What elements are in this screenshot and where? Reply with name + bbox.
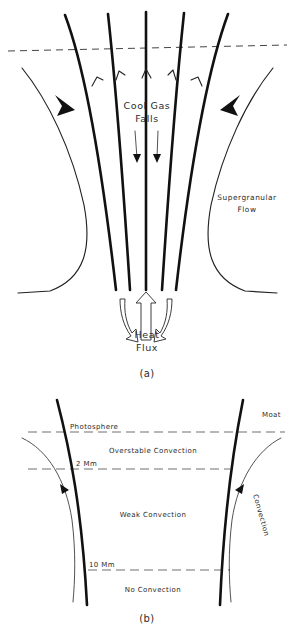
- weak-convection-label: Weak Convection: [120, 511, 187, 519]
- supergranular-flow-label-line2: Flow: [238, 205, 257, 214]
- heat-flux-label-line1: Heat: [135, 329, 160, 340]
- photosphere-label: Photosphere: [70, 423, 118, 431]
- cool-gas-label-line2: Falls: [135, 113, 159, 124]
- depth-2mm-label: 2 Mm: [76, 460, 97, 468]
- panel-b-caption: (b): [139, 613, 154, 624]
- no-convection-label: No Convection: [125, 586, 181, 594]
- moat-label: Moat: [262, 411, 281, 419]
- depth-10mm-label: 10 Mm: [89, 561, 115, 569]
- panel-a-caption: (a): [139, 368, 154, 379]
- overstable-convection-label: Overstable Convection: [109, 447, 197, 455]
- heat-flux-label-line2: Flux: [136, 342, 158, 353]
- cool-gas-label-line1: Cool Gas: [124, 100, 171, 111]
- supergranular-flow-label-line1: Supergranular: [217, 193, 277, 202]
- figure-root: Cool Gas Falls Supergranular Flow Heat F…: [0, 0, 295, 634]
